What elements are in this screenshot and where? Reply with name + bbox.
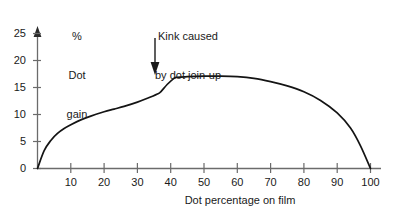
y-tick-label: 10: [2, 108, 26, 121]
y-tick-label: 0: [2, 162, 26, 175]
x-axis-title: Dot percentage on film: [140, 194, 340, 207]
x-tick-label: 100: [356, 176, 386, 189]
y-axis-title-line-3: gain: [54, 108, 100, 121]
x-tick-label: 20: [89, 176, 119, 189]
y-tick-label: 5: [2, 135, 26, 148]
y-axis-title-line-2: Dot: [54, 69, 100, 82]
x-tick-label: 40: [156, 176, 186, 189]
y-tick-label: 25: [2, 27, 26, 40]
kink-annotation-line-1: Kink caused: [128, 30, 248, 43]
y-tick-label: 20: [2, 54, 26, 67]
x-tick-label: 80: [289, 176, 319, 189]
x-tick-label: 30: [122, 176, 152, 189]
kink-annotation-text: Kink caused by dot join-up: [128, 4, 248, 108]
x-tick-label: 60: [222, 176, 252, 189]
y-axis-arrowhead: [34, 26, 42, 37]
x-tick-label: 90: [322, 176, 352, 189]
x-tick-label: 10: [56, 176, 86, 189]
y-axis-title-line-1: %: [54, 30, 100, 43]
dot-gain-chart-figure: % Dot gain Kink caused by dot join-up Do…: [0, 0, 409, 218]
x-tick-label: 50: [189, 176, 219, 189]
y-axis-title: % Dot gain: [54, 4, 100, 147]
kink-annotation-line-2: by dot join-up: [128, 69, 248, 82]
x-tick-label: 70: [256, 176, 286, 189]
y-tick-label: 15: [2, 81, 26, 94]
